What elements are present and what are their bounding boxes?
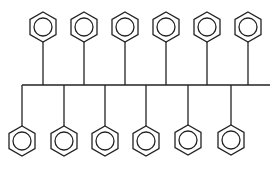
aromatic-circle [222, 131, 240, 149]
benzene-ring-icon [9, 85, 35, 156]
benzene-ring-icon [235, 12, 261, 85]
benzene-ring-icon [153, 12, 179, 85]
benzene-ring-icon [71, 12, 97, 85]
benzene-ring-icon [133, 85, 159, 156]
benzene-ring-icon [175, 85, 201, 155]
aromatic-circle [55, 132, 73, 150]
aromatic-circle [116, 18, 134, 36]
benzene-ring-icon [30, 12, 56, 85]
aromatic-circle [239, 18, 257, 36]
benzene-ring-icon [92, 85, 118, 156]
top-pendant-rings [30, 12, 261, 85]
aromatic-circle [13, 132, 31, 150]
benzene-ring-icon [112, 12, 138, 85]
benzene-ring-icon [218, 85, 244, 155]
polymer-structure-diagram [0, 0, 278, 169]
benzene-ring-icon [194, 12, 220, 85]
aromatic-circle [137, 132, 155, 150]
aromatic-circle [179, 131, 197, 149]
aromatic-circle [198, 18, 216, 36]
aromatic-circle [34, 18, 52, 36]
aromatic-circle [75, 18, 93, 36]
aromatic-circle [96, 132, 114, 150]
bottom-pendant-rings [9, 85, 244, 156]
benzene-ring-icon [51, 85, 77, 156]
aromatic-circle [157, 18, 175, 36]
